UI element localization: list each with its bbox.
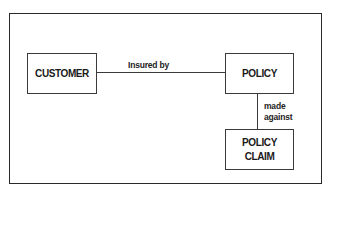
relationship-label-insured-by: Insured by xyxy=(128,60,169,71)
entity-customer: CUSTOMER xyxy=(27,53,97,94)
relationship-line-insured-by xyxy=(96,72,225,73)
entity-policy-claim: POLICY CLAIM xyxy=(225,129,294,170)
entity-policy-claim-label-line2: CLAIM xyxy=(245,150,275,164)
entity-policy-claim-label-line1: POLICY xyxy=(242,136,277,150)
relationship-line-made-against xyxy=(257,93,258,129)
relationship-label-made-against: made against xyxy=(264,101,292,123)
entity-policy-label: POLICY xyxy=(242,67,277,81)
entity-customer-label: CUSTOMER xyxy=(35,67,89,81)
relationship-label-against: against xyxy=(264,112,292,123)
entity-policy: POLICY xyxy=(225,53,294,94)
relationship-label-made: made xyxy=(264,101,292,112)
